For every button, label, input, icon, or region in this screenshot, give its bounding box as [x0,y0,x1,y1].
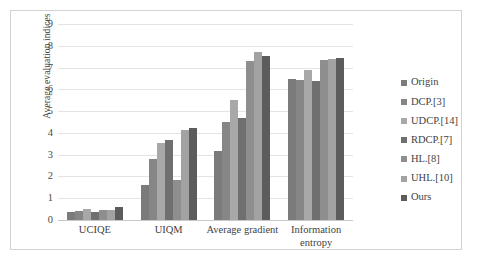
bar [328,59,336,220]
legend-swatch-icon [401,176,407,182]
bar-groups [58,24,353,220]
legend-swatch-icon [401,99,407,105]
bar [304,70,312,220]
y-tick-label: 9 [48,19,53,30]
bar [91,212,99,220]
legend-swatch-icon [401,118,407,124]
bar-group [58,24,132,220]
y-tick-label: 4 [48,128,53,139]
bar [238,118,246,220]
bar-group [206,24,280,220]
bar [67,212,75,220]
bar [230,100,238,220]
bar [254,52,262,220]
plot-area: 0123456789 [58,24,353,220]
gridline [58,220,353,221]
legend-item[interactable]: UDCP.[14] [401,111,479,130]
legend-item[interactable]: Ours [401,188,479,207]
x-axis-tick-labels: UCIQEUIQMAverage gradientInformation ent… [58,223,353,263]
bar [312,81,320,220]
bar [141,185,149,220]
legend-label: Origin [411,77,438,88]
x-tick-label: Information entropy [279,223,353,249]
x-tick-label: Average gradient [206,223,280,236]
bar [157,143,165,220]
bar [246,61,254,220]
y-tick-label: 1 [48,193,53,204]
y-tick-label: 8 [48,41,53,52]
bar [165,140,173,220]
bar [262,56,270,220]
legend: OriginDCP.[3]UDCP.[14]RDCP.[7]HL.[8]UHL.… [401,73,479,207]
legend-label: DCP.[3] [411,97,445,108]
chart-figure: Average evaluation indices 0123456789 UC… [0,0,483,267]
x-tick-label: UCIQE [58,223,132,236]
bar-group [132,24,206,220]
bar-group [279,24,353,220]
chart-frame: Average evaluation indices 0123456789 UC… [10,10,462,250]
bar [99,210,107,220]
legend-label: UHL.[10] [411,173,453,184]
y-tick-label: 5 [48,106,53,117]
legend-label: Ours [411,192,431,203]
bar [214,151,222,220]
bar [181,130,189,220]
bar [173,180,181,220]
legend-item[interactable]: RDCP.[7] [401,131,479,150]
legend-label: HL.[8] [411,154,440,165]
legend-swatch-icon [401,137,407,143]
bar [75,211,83,220]
y-tick-label: 3 [48,149,53,160]
legend-swatch-icon [401,80,407,86]
bar [336,58,344,220]
y-tick-label: 2 [48,171,53,182]
legend-label: RDCP.[7] [411,135,452,146]
legend-item[interactable]: DCP.[3] [401,92,479,111]
bar [83,209,91,220]
y-tick-label: 0 [48,215,53,226]
legend-swatch-icon [401,195,407,201]
legend-label: UDCP.[14] [411,116,458,127]
x-tick-label: UIQM [132,223,206,236]
bar [320,60,328,221]
bar [189,128,197,220]
bar [288,79,296,220]
y-tick-label: 6 [48,84,53,95]
legend-item[interactable]: UHL.[10] [401,169,479,188]
bar [115,207,123,220]
legend-item[interactable]: HL.[8] [401,150,479,169]
bar [296,80,304,220]
legend-swatch-icon [401,156,407,162]
bar [222,122,230,220]
bar [149,159,157,220]
legend-item[interactable]: Origin [401,73,479,92]
y-tick-label: 7 [48,62,53,73]
bar [107,210,115,220]
